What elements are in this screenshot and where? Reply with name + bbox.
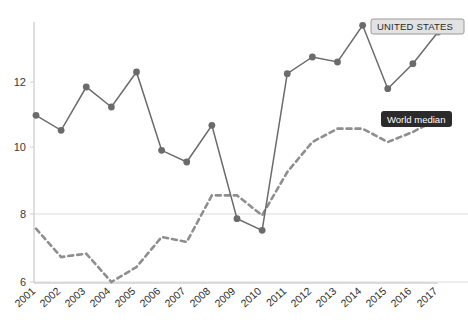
world-median-line (36, 119, 438, 282)
chart-container: 12 10 8 6 2001 2002 2003 2004 2005 2006 … (0, 0, 468, 329)
x-tick-label-2007: 2007 (162, 284, 188, 309)
annotation-world-median[interactable]: World median (381, 111, 452, 127)
annotation-world-label: World median (387, 114, 445, 125)
x-tick-label-2015: 2015 (363, 284, 389, 309)
x-tick-label-2010: 2010 (238, 284, 264, 309)
data-point[interactable] (83, 84, 90, 91)
data-point[interactable] (58, 127, 65, 134)
data-point[interactable] (259, 227, 266, 234)
annotation-us-label: UNITED STATES (377, 21, 453, 32)
data-point[interactable] (359, 22, 366, 29)
x-tick-label-2005: 2005 (112, 284, 138, 309)
x-tick-label-2004: 2004 (87, 284, 113, 309)
x-tick-label-2014: 2014 (338, 284, 364, 309)
x-tick-label-2012: 2012 (288, 284, 314, 309)
data-point[interactable] (158, 147, 165, 154)
x-tick-label-2002: 2002 (37, 284, 63, 309)
x-tick-label-2013: 2013 (313, 284, 339, 309)
x-tick-label-2006: 2006 (137, 284, 163, 309)
x-tick-label-2017: 2017 (414, 284, 440, 309)
x-tick-label-2016: 2016 (388, 284, 414, 309)
y-tick-label-6: 6 (20, 276, 26, 288)
data-point[interactable] (334, 59, 341, 66)
y-tick-labels: 12 10 8 6 (14, 76, 26, 288)
series-world-median (36, 119, 438, 282)
series-united-states (33, 22, 442, 234)
x-tick-label-2008: 2008 (187, 284, 213, 309)
x-tick-labels: 2001 2002 2003 2004 2005 2006 2007 2008 … (12, 284, 440, 309)
x-tick-label-2003: 2003 (62, 284, 88, 309)
gridlines (34, 214, 468, 282)
x-tick-label-2001: 2001 (12, 284, 38, 309)
data-point[interactable] (234, 215, 241, 222)
data-point[interactable] (108, 104, 115, 111)
united-states-line (36, 25, 438, 230)
data-point[interactable] (133, 69, 140, 76)
data-point[interactable] (183, 159, 190, 166)
y-tick-label-8: 8 (20, 208, 26, 220)
data-point[interactable] (33, 112, 40, 119)
line-chart: 12 10 8 6 2001 2002 2003 2004 2005 2006 … (0, 0, 468, 329)
data-point[interactable] (208, 122, 215, 129)
y-tick-label-12: 12 (14, 76, 26, 88)
y-tick-label-10: 10 (14, 141, 26, 153)
data-point[interactable] (384, 85, 391, 92)
data-point[interactable] (284, 70, 291, 77)
x-tick-label-2011: 2011 (264, 284, 289, 308)
data-point[interactable] (309, 54, 316, 61)
annotation-united-states[interactable]: UNITED STATES (371, 19, 464, 34)
x-tick-label-2009: 2009 (212, 284, 238, 309)
data-point[interactable] (409, 60, 416, 67)
